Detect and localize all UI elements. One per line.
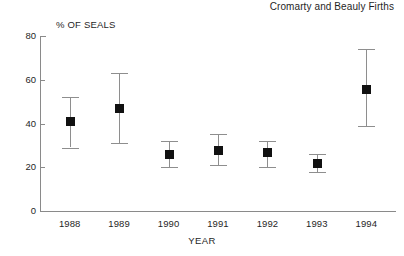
error-bar-cap-upper (358, 49, 375, 50)
y-tick-label: 0 (6, 205, 36, 216)
y-tick-mark (40, 36, 46, 37)
error-bar-cap-upper (62, 97, 79, 98)
y-tick-label: 60 (6, 74, 36, 85)
error-bar-cap-lower (358, 126, 375, 127)
chart-figure: Cromarty and Beauly Firths % OF SEALS YE… (0, 0, 404, 256)
data-point-marker (313, 159, 322, 168)
y-axis-title: % OF SEALS (56, 19, 116, 30)
chart-title: Cromarty and Beauly Firths (270, 1, 394, 12)
y-tick-label: 40 (6, 118, 36, 129)
y-tick-mark (40, 211, 46, 212)
data-point-marker (263, 148, 272, 157)
x-tick-label: 1988 (48, 218, 92, 229)
error-bar-cap-lower (62, 148, 79, 149)
y-tick-mark (40, 167, 45, 168)
error-bar-cap-lower (309, 172, 326, 173)
x-tick-label: 1993 (295, 218, 339, 229)
x-axis-title: YEAR (0, 235, 404, 246)
data-point-marker (214, 146, 223, 155)
x-tick-label: 1992 (245, 218, 289, 229)
error-bar-cap-lower (259, 167, 276, 168)
data-point-marker (165, 150, 174, 159)
x-tick-label: 1994 (344, 218, 388, 229)
data-point-marker (115, 104, 124, 113)
y-tick-mark (40, 80, 45, 81)
y-tick-mark (40, 124, 45, 125)
x-tick-label: 1990 (147, 218, 191, 229)
error-bar-cap-upper (309, 154, 326, 155)
y-tick-label: 80 (6, 30, 36, 41)
error-bar-cap-lower (111, 143, 128, 144)
error-bar-cap-upper (259, 141, 276, 142)
y-tick-label: 20 (6, 161, 36, 172)
error-bar-cap-lower (210, 165, 227, 166)
error-bar-cap-upper (111, 73, 128, 74)
error-bar-cap-upper (161, 141, 178, 142)
x-axis-line (40, 211, 396, 212)
x-tick-label: 1989 (97, 218, 141, 229)
error-bar-cap-upper (210, 134, 227, 135)
data-point-marker (362, 85, 371, 94)
x-tick-label: 1991 (196, 218, 240, 229)
error-bar-cap-lower (161, 167, 178, 168)
data-point-marker (66, 117, 75, 126)
